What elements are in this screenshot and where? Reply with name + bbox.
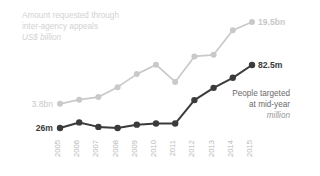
chart-title-line-2: inter-agency appeals: [22, 22, 98, 31]
annotation-line-1: People targeted: [232, 89, 290, 98]
x-axis-tick-labels: 2005200620072008200920102011201220132014…: [53, 140, 254, 157]
x-axis-tick-2015: 2015: [245, 140, 254, 157]
amount-requested-point: [76, 97, 82, 103]
amount-requested-point: [191, 53, 197, 59]
x-axis-tick-2012: 2012: [187, 140, 196, 157]
people-targeted-point: [114, 125, 120, 131]
amount-requested-point: [249, 19, 255, 25]
amount-requested-point: [115, 84, 121, 90]
people-targeted-point: [230, 75, 236, 81]
series-amount-requested: [57, 19, 255, 107]
series-annotation-block: People targeted at mid-year million: [232, 89, 290, 120]
annotation-line-3-units: million: [267, 111, 291, 120]
x-axis-tick-2008: 2008: [111, 140, 120, 157]
people-targeted-point: [249, 62, 255, 68]
x-axis-tick-2011: 2011: [168, 140, 177, 156]
value-labels: 3.8bn 19.5bn 26m 82.5m: [31, 17, 285, 133]
chart-subtitle-units: US$ billion: [22, 33, 62, 42]
amount-requested-point: [134, 71, 140, 77]
people-targeted-point: [172, 120, 178, 126]
amount-requested-point: [211, 52, 217, 58]
grey-series-start-label: 3.8bn: [31, 99, 53, 109]
people-targeted-line: [60, 65, 252, 128]
grey-series-end-label: 19.5bn: [258, 17, 285, 27]
people-targeted-point: [153, 120, 159, 126]
x-axis-tick-2014: 2014: [226, 140, 235, 157]
x-axis-tick-2013: 2013: [207, 140, 216, 157]
people-targeted-point: [57, 125, 63, 131]
chart-title-line-1: Amount requested through: [22, 11, 119, 20]
x-axis-tick-2009: 2009: [130, 140, 139, 157]
dark-series-end-label: 82.5m: [258, 60, 283, 70]
amount-requested-point: [95, 94, 101, 100]
x-axis-tick-2006: 2006: [72, 140, 81, 157]
x-axis-tick-2010: 2010: [149, 140, 158, 157]
series-people-targeted: [57, 62, 255, 131]
line-chart-svg: Amount requested through inter-agency ap…: [0, 0, 320, 176]
people-targeted-point: [134, 121, 140, 127]
amount-requested-point: [230, 27, 236, 33]
dark-series-start-label: 26m: [36, 123, 54, 133]
amount-requested-point: [57, 101, 63, 107]
x-axis-tick-2007: 2007: [91, 140, 100, 157]
chart-container: Amount requested through inter-agency ap…: [0, 0, 320, 176]
x-axis-tick-2005: 2005: [53, 140, 62, 157]
amount-requested-point: [153, 62, 159, 68]
people-targeted-point: [191, 97, 197, 103]
people-targeted-point: [210, 85, 216, 91]
chart-title-block: Amount requested through inter-agency ap…: [22, 11, 119, 42]
amount-requested-point: [172, 79, 178, 85]
people-targeted-point: [76, 119, 82, 125]
annotation-line-2: at mid-year: [249, 100, 290, 109]
people-targeted-point: [95, 124, 101, 130]
